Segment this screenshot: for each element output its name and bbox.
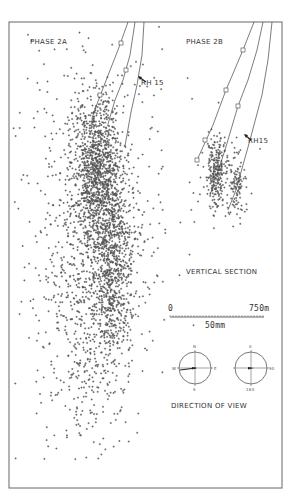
compass-left-icon [177,350,213,386]
vertical-section-label: VERTICAL SECTION [186,268,257,276]
rh15-label-2a: RH 15 [141,79,164,87]
scatter-plot [0,0,293,501]
compass-right-icon [233,350,269,386]
scale-bar [170,315,264,317]
compass-e-label: E [214,366,217,371]
phase-2b-label: PHASE 2B [186,38,223,46]
scale-caption-label: 50mm [205,321,225,330]
compass-0-label: 0 [249,344,252,349]
direction-of-view-label: DIRECTION OF VIEW [171,402,247,410]
well-trajectories [92,22,272,210]
compass-w-label: W [172,366,176,371]
seismic-vertical-section-figure: PHASE 2A PHASE 2B RH 15 RH15 VERTICAL SE… [0,0,293,501]
compass-n-label: N [193,344,196,349]
scale-start-label: 0 [168,304,173,313]
compass-s-label: S [193,387,196,392]
compass-90-label: 90 [269,366,275,371]
rh15-label-2b: RH15 [248,137,268,145]
frame-border [9,22,282,488]
phase-2a-label: PHASE 2A [30,38,67,46]
compass-180-label: 180 [246,387,255,392]
scale-end-label: 750m [249,304,269,313]
